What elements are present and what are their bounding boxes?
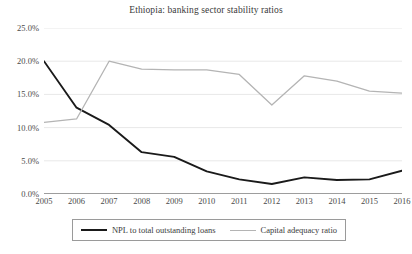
- chart-title: Ethiopia: banking sector stability ratio…: [0, 5, 412, 15]
- legend-item-npl: NPL to total outstanding loans: [81, 225, 216, 235]
- x-axis-tick-label: 2010: [198, 196, 215, 206]
- series-line: [44, 61, 402, 184]
- series-lines: [44, 61, 402, 184]
- x-axis-tick-label: 2016: [394, 196, 411, 206]
- x-axis-tick-label: 2012: [263, 196, 280, 206]
- y-axis-tick-label: 10.0%: [17, 123, 39, 133]
- x-axis: 2005200620072008200920102011201220132014…: [44, 196, 402, 212]
- legend-label-car: Capital adequacy ratio: [261, 225, 337, 235]
- legend-label-npl: NPL to total outstanding loans: [112, 225, 216, 235]
- gridlines: [44, 28, 402, 161]
- x-axis-tick-label: 2006: [68, 196, 85, 206]
- x-axis-tick-label: 2005: [36, 196, 53, 206]
- x-axis-tick-label: 2015: [361, 196, 378, 206]
- plot-svg: [44, 28, 402, 194]
- x-axis-tick-label: 2011: [231, 196, 248, 206]
- chart-container: Ethiopia: banking sector stability ratio…: [0, 0, 412, 254]
- y-axis-tick-label: 25.0%: [17, 23, 39, 33]
- x-axis-tick-label: 2007: [101, 196, 118, 206]
- x-axis-tick-label: 2008: [133, 196, 150, 206]
- y-axis-tick-label: 15.0%: [17, 89, 39, 99]
- y-axis: 0.0%5.0%10.0%15.0%20.0%25.0%: [0, 28, 41, 194]
- legend-item-car: Capital adequacy ratio: [230, 225, 337, 235]
- x-axis-tick-label: 2014: [328, 196, 345, 206]
- y-axis-tick-label: 20.0%: [17, 56, 39, 66]
- plot-area: [44, 28, 402, 194]
- legend-line-icon-npl: [81, 229, 107, 231]
- y-axis-tick-label: 5.0%: [21, 156, 39, 166]
- series-line: [44, 61, 402, 122]
- x-axis-tick-label: 2009: [166, 196, 183, 206]
- x-axis-tick-label: 2013: [296, 196, 313, 206]
- legend-line-icon-car: [230, 230, 256, 231]
- chart-legend: NPL to total outstanding loans Capital a…: [72, 219, 346, 241]
